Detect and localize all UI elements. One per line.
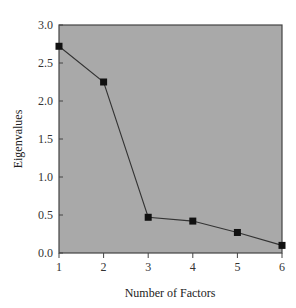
x-axis-label: Number of Factors	[125, 286, 216, 300]
x-tick-label: 2	[101, 260, 107, 274]
y-tick-label: 2.5	[38, 56, 53, 70]
x-tick-label: 5	[234, 260, 240, 274]
scree-plot: 0.00.51.01.52.02.53.0 123456 Number of F…	[0, 0, 296, 308]
y-tick-label: 0.0	[38, 246, 53, 260]
y-tick-label: 1.0	[38, 170, 53, 184]
x-tick-label: 6	[279, 260, 285, 274]
data-point-marker	[56, 43, 63, 50]
y-tick-label: 3.0	[38, 18, 53, 32]
x-axis-ticks: 123456	[56, 253, 285, 274]
data-point-marker	[189, 218, 196, 225]
y-tick-label: 1.5	[38, 132, 53, 146]
data-point-marker	[234, 229, 241, 236]
x-tick-label: 1	[56, 260, 62, 274]
x-tick-label: 4	[190, 260, 196, 274]
y-axis-label: Eigenvalues	[11, 109, 25, 168]
y-tick-label: 2.0	[38, 94, 53, 108]
x-tick-label: 3	[145, 260, 151, 274]
data-point-marker	[100, 79, 107, 86]
data-point-marker	[145, 214, 152, 221]
data-point-marker	[279, 242, 286, 249]
y-tick-label: 0.5	[38, 208, 53, 222]
